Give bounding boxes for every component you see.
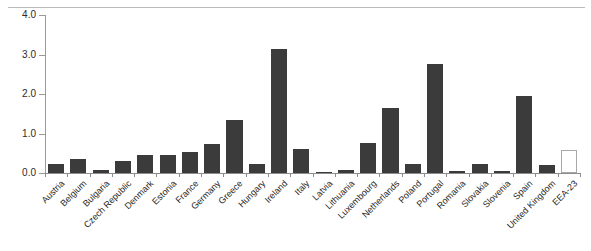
x-axis-tick-mark [313, 173, 314, 177]
bar [516, 96, 532, 173]
bar-column [382, 15, 398, 173]
bar-column [160, 15, 176, 173]
bar [226, 120, 242, 173]
x-axis-tick-mark [402, 173, 403, 177]
bar-column [561, 15, 577, 173]
y-axis-tick-label: 4.0 [2, 10, 36, 20]
bar [449, 171, 465, 173]
bar [494, 171, 510, 173]
x-axis-tick-mark [535, 173, 536, 177]
x-axis-tick-mark [290, 173, 291, 177]
top-divider-rule [8, 7, 585, 8]
x-axis-tick-mark [134, 173, 135, 177]
x-axis-tick-mark [446, 173, 447, 177]
bar [204, 144, 220, 173]
bar [93, 170, 109, 173]
bar-column [249, 15, 265, 173]
x-axis-tick-mark [156, 173, 157, 177]
x-axis-tick-mark [112, 173, 113, 177]
bar-column [405, 15, 421, 173]
bar-column [516, 15, 532, 173]
x-axis-tick-mark [580, 173, 581, 177]
bar [70, 159, 86, 173]
bar-column [93, 15, 109, 173]
bar-column [115, 15, 131, 173]
bar [561, 150, 577, 173]
x-axis-tick-mark [469, 173, 470, 177]
y-axis-tick-label: 2.0 [2, 89, 36, 99]
plot-area [45, 15, 580, 173]
bar-column [338, 15, 354, 173]
bar [249, 164, 265, 173]
bar-column [539, 15, 555, 173]
x-axis-tick-mark [424, 173, 425, 177]
bar [472, 164, 488, 173]
bar [427, 64, 443, 173]
bar-column [204, 15, 220, 173]
x-axis-tick-mark [201, 173, 202, 177]
x-axis-tick-mark [268, 173, 269, 177]
x-axis-category-label-text: Italy [294, 179, 312, 197]
y-axis-tick-label: 0.0 [2, 168, 36, 178]
bar-column [293, 15, 309, 173]
x-axis-tick-mark [379, 173, 380, 177]
bar-chart-figure: 0.01.02.03.04.0 AustriaBelgiumBulgariaCz… [0, 0, 591, 251]
x-axis-tick-mark [357, 173, 358, 177]
x-axis-tick-mark [246, 173, 247, 177]
bar-column [226, 15, 242, 173]
bar [539, 165, 555, 173]
x-axis-tick-mark [223, 173, 224, 177]
bar [338, 170, 354, 173]
x-axis-tick-mark [179, 173, 180, 177]
bar-column [494, 15, 510, 173]
bar [182, 152, 198, 173]
bar-column [137, 15, 153, 173]
bar [405, 164, 421, 173]
x-axis-tick-mark [90, 173, 91, 177]
x-axis-tick-mark [513, 173, 514, 177]
bar [382, 108, 398, 173]
bar [360, 143, 376, 173]
y-axis-tick-label: 3.0 [2, 50, 36, 60]
bar [48, 164, 64, 173]
bar [115, 161, 131, 173]
bar-column [70, 15, 86, 173]
x-axis-tick-mark [558, 173, 559, 177]
bar-column [48, 15, 64, 173]
x-axis-tick-mark [335, 173, 336, 177]
bar [293, 149, 309, 173]
bar [160, 155, 176, 173]
bar [316, 172, 332, 173]
bar-column [271, 15, 287, 173]
bar-column [472, 15, 488, 173]
x-axis-tick-mark [67, 173, 68, 177]
y-axis-tick-label: 1.0 [2, 129, 36, 139]
x-axis-tick-mark [45, 173, 46, 177]
bar-column [427, 15, 443, 173]
bar-column [182, 15, 198, 173]
bar-column [316, 15, 332, 173]
bar [137, 155, 153, 173]
bar-column [449, 15, 465, 173]
bar [271, 49, 287, 173]
x-axis-tick-mark [491, 173, 492, 177]
bar-column [360, 15, 376, 173]
